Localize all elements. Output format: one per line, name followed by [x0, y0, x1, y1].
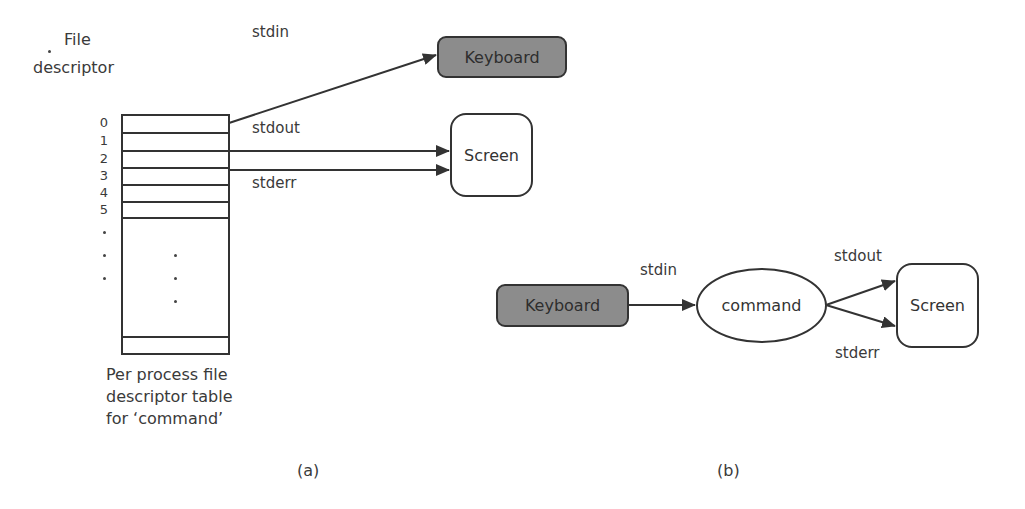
- row-number-2: 2: [98, 152, 110, 165]
- stdin-label-b: stdin: [640, 263, 677, 278]
- stderr-arrow-b: [826, 305, 895, 326]
- panel-label-b: (b): [717, 460, 740, 482]
- stdin-arrow-a: [229, 55, 436, 123]
- panel-label-a: (a): [297, 460, 319, 482]
- stdout-arrow-b: [826, 281, 895, 305]
- row-number-0: 0: [98, 116, 110, 129]
- screen-box-b: Screen: [896, 263, 979, 348]
- table-caption-line3: for ‘command’: [106, 408, 223, 430]
- screen-box-a: Screen: [450, 113, 533, 197]
- stderr-label-a: stderr: [252, 176, 297, 191]
- table-caption-line2: descriptor table: [106, 386, 233, 408]
- row-number-5: 5: [98, 203, 110, 216]
- file-descriptor-table: [122, 115, 229, 354]
- file-descriptor-header-line2: descriptor: [33, 60, 114, 76]
- table-caption-line1: Per process file: [106, 364, 228, 386]
- ellipsis-dot-icon: [103, 277, 106, 280]
- file-descriptor-header-line1: File: [64, 32, 91, 48]
- row-number-3: 3: [98, 169, 110, 182]
- ellipsis-dot-icon: [103, 254, 106, 257]
- keyboard-box-a: Keyboard: [437, 36, 567, 78]
- keyboard-box-b: Keyboard: [496, 284, 629, 327]
- row-number-1: 1: [98, 134, 110, 147]
- command-ellipse: command: [696, 268, 827, 343]
- bullet-dot-icon: [48, 50, 51, 53]
- stdin-label-a: stdin: [252, 25, 289, 40]
- ellipsis-dot-icon: [174, 277, 177, 280]
- ellipsis-dot-icon: [174, 254, 177, 257]
- stdout-label-a: stdout: [252, 121, 300, 136]
- ellipsis-dot-icon: [174, 300, 177, 303]
- ellipsis-dot-icon: [103, 231, 106, 234]
- row-number-4: 4: [98, 186, 110, 199]
- stderr-label-b: stderr: [835, 346, 880, 361]
- stdout-label-b: stdout: [834, 249, 882, 264]
